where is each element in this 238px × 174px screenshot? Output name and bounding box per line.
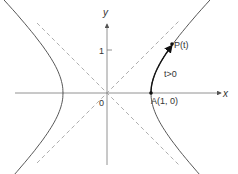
y-tick-label: 1 <box>99 46 104 56</box>
point-a <box>149 91 153 95</box>
hyperbola-right-branch <box>151 0 215 174</box>
asymptote-negative <box>37 23 180 166</box>
hyperbola-left-branch <box>0 0 63 174</box>
asymptote-positive <box>37 20 180 163</box>
point-p-label: P(t) <box>174 40 189 50</box>
origin-label: 0 <box>99 98 104 108</box>
point-a-label: A(1, 0) <box>151 96 178 106</box>
y-axis-label: y <box>102 7 109 18</box>
x-axis-label: x <box>222 88 229 99</box>
hyperbola-diagram: y x 1 0 P(t) A(1, 0) t>0 <box>0 0 238 174</box>
arc-label: t>0 <box>164 69 177 79</box>
